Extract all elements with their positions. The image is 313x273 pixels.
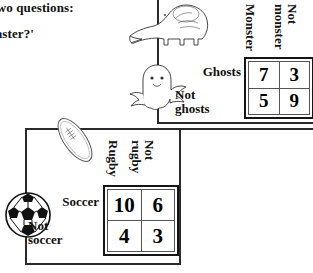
table-row: 4 3 — [108, 221, 175, 252]
sport-cell-notsoccer-rugby: 4 — [108, 221, 142, 252]
sport-contingency-table: 10 6 4 3 — [103, 185, 179, 256]
panel-divider-rule — [181, 128, 313, 130]
monster-table-row-header-not-ghosts: Not ghosts — [175, 88, 241, 116]
sport-table-row-header-not-soccer: Not soccer — [28, 219, 99, 247]
sport-table-column-header-rugby: Rugby — [105, 140, 121, 177]
sport-table-row-header-soccer: Soccer — [28, 195, 99, 209]
worksheet-page: se two questions: Monster?' — [0, 0, 313, 273]
sport-cell-notsoccer-notrugby: 3 — [141, 221, 175, 252]
monster-cell-notghosts-monster: 5 — [249, 88, 280, 115]
table-row: 5 9 — [249, 88, 310, 115]
monster-cell-ghosts-monster: 7 — [249, 62, 280, 89]
table-row: 7 3 — [249, 62, 310, 89]
dinosaur-icon — [128, 0, 212, 50]
monster-table-column-header-monster: Monster — [242, 4, 258, 51]
sport-cell-soccer-notrugby: 6 — [141, 190, 175, 221]
rugby-ball-icon — [47, 112, 103, 168]
monster-cell-notghosts-notmonster: 9 — [279, 88, 310, 115]
monster-table-row-header-ghosts: Ghosts — [175, 65, 241, 79]
monster-table-column-header-not-line2: monster — [271, 4, 287, 50]
sport-table-column-header-not-line2: rugby — [128, 140, 144, 173]
monster-contingency-table: 7 3 5 9 — [244, 57, 313, 119]
monster-cell-ghosts-notmonster: 3 — [279, 62, 310, 89]
table-row: 10 6 — [108, 190, 175, 221]
sport-cell-soccer-rugby: 10 — [108, 190, 142, 221]
prose-line-1: se two questions: — [0, 0, 74, 16]
prose-line-2: Monster?' — [0, 26, 34, 42]
